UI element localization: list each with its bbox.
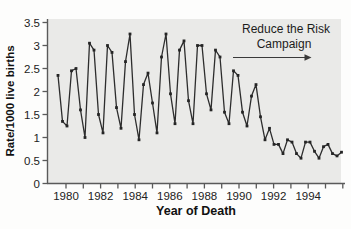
- data-point-marker: [250, 95, 253, 98]
- data-point-marker: [120, 127, 123, 130]
- data-point-marker: [300, 157, 303, 160]
- data-point-marker: [340, 151, 343, 154]
- data-point-marker: [192, 122, 195, 125]
- data-point-marker: [196, 44, 199, 47]
- y-tick-label: 3.5: [24, 17, 40, 29]
- data-point-marker: [93, 49, 96, 52]
- data-point-marker: [124, 60, 127, 63]
- data-point-marker: [336, 155, 339, 158]
- data-point-marker: [106, 44, 109, 47]
- data-point-marker: [138, 138, 141, 141]
- data-point-marker: [309, 141, 312, 144]
- data-point-marker: [304, 141, 307, 144]
- data-point-marker: [205, 92, 208, 95]
- data-point-marker: [142, 83, 145, 86]
- data-point-marker: [115, 106, 118, 109]
- y-axis-ticks: 00.511.522.533.5: [24, 17, 48, 190]
- x-axis-title: Year of Death: [156, 204, 236, 218]
- data-point-marker: [282, 152, 285, 155]
- x-tick-label: 1988: [192, 190, 218, 202]
- y-axis-title: Rate/1000 live births: [4, 45, 16, 156]
- data-point-marker: [129, 33, 132, 36]
- y-tick-label: 1: [34, 132, 40, 144]
- data-point-marker: [147, 72, 150, 75]
- y-tick-label: 3: [34, 40, 40, 52]
- sids-rate-chart-figure: 00.511.522.533.5 19801982198419861988199…: [0, 0, 351, 229]
- data-point-marker: [174, 122, 177, 125]
- data-point-marker: [57, 74, 60, 77]
- x-tick-label: 1986: [157, 190, 183, 202]
- data-point-marker: [228, 122, 231, 125]
- data-point-marker: [133, 113, 136, 116]
- data-point-marker: [264, 138, 267, 141]
- data-point-marker: [277, 143, 280, 146]
- x-tick-label: 1980: [53, 190, 79, 202]
- x-axis-ticks: 19801982198419861988199019921994: [53, 184, 343, 202]
- chart-canvas: 00.511.522.533.5 19801982198419861988199…: [0, 0, 351, 229]
- data-point-marker: [75, 67, 78, 70]
- data-point-marker: [84, 136, 87, 139]
- data-point-marker: [70, 69, 73, 72]
- y-tick-label: 2.5: [24, 63, 40, 75]
- data-point-marker: [322, 145, 325, 148]
- data-point-marker: [327, 143, 330, 146]
- data-point-marker: [210, 109, 213, 112]
- data-point-marker: [331, 152, 334, 155]
- data-point-marker: [241, 111, 244, 114]
- data-point-marker: [151, 102, 154, 105]
- data-point-marker: [232, 69, 235, 72]
- campaign-annotation-line2: Campaign: [257, 37, 312, 51]
- x-tick-label: 1990: [226, 190, 252, 202]
- data-point-marker: [97, 113, 100, 116]
- x-tick-label: 1992: [261, 190, 287, 202]
- data-point-marker: [79, 109, 82, 112]
- data-point-marker: [313, 150, 316, 153]
- campaign-annotation-line1: Reduce the Risk: [242, 22, 331, 36]
- x-tick-label: 1984: [122, 190, 148, 202]
- data-point-marker: [291, 141, 294, 144]
- data-point-marker: [255, 83, 258, 86]
- data-point-marker: [66, 125, 69, 128]
- data-point-marker: [61, 120, 64, 123]
- data-point-marker: [223, 111, 226, 114]
- y-tick-label: 1.5: [24, 109, 40, 121]
- data-point-marker: [237, 74, 240, 77]
- data-point-marker: [246, 125, 249, 128]
- data-point-marker: [268, 127, 271, 130]
- data-point-marker: [183, 40, 186, 43]
- data-point-marker: [156, 132, 159, 135]
- data-point-marker: [286, 138, 289, 141]
- data-point-marker: [165, 33, 168, 36]
- y-tick-label: 0.5: [24, 155, 40, 167]
- data-point-marker: [201, 44, 204, 47]
- data-point-marker: [88, 42, 91, 45]
- data-point-marker: [214, 49, 217, 52]
- y-tick-label: 0: [34, 178, 40, 190]
- x-tick-label: 1982: [88, 190, 114, 202]
- data-point-marker: [273, 143, 276, 146]
- data-point-marker: [187, 99, 190, 102]
- data-point-marker: [219, 56, 222, 59]
- data-point-marker: [259, 115, 262, 118]
- data-point-marker: [111, 51, 114, 54]
- data-point-marker: [102, 132, 105, 135]
- y-tick-label: 2: [34, 86, 40, 98]
- data-point-marker: [178, 49, 181, 52]
- data-point-marker: [160, 56, 163, 59]
- x-tick-label: 1994: [295, 190, 321, 202]
- data-point-marker: [295, 152, 298, 155]
- data-point-marker: [318, 157, 321, 160]
- data-point-marker: [169, 92, 172, 95]
